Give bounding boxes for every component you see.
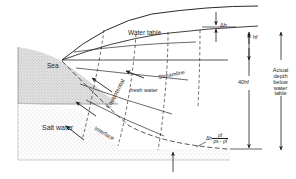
depth-40hf-dimension — [230, 34, 262, 149]
delta-h-label: Δh — [220, 23, 227, 29]
salt-water-label: Salt water — [42, 124, 73, 131]
equipotential-line — [198, 30, 200, 106]
actual-depth-line-5: table — [274, 90, 286, 96]
actual-depth-note: Actual depth below water table — [267, 68, 294, 97]
formula-denominator: ρs - ρf — [212, 139, 228, 144]
flow-arrow — [126, 71, 144, 78]
depth-40hf-label: 40hf — [238, 80, 249, 86]
delta-h-dimension — [202, 12, 236, 42]
ghyben-herzberg-formula: Δhρfρs - ρf — [206, 133, 228, 144]
salt-water-region — [18, 104, 230, 160]
equipotential-line — [158, 32, 168, 150]
water-table-label: Water table — [128, 30, 161, 37]
hf-label: hf — [253, 35, 258, 41]
diagram-canvas: Sea Salt water Water table Streamline Eq… — [0, 0, 296, 179]
formula-fraction: ρfρs - ρf — [212, 133, 228, 144]
sea-label: Sea — [47, 63, 59, 70]
fresh-water-label: fresh water — [130, 88, 158, 94]
